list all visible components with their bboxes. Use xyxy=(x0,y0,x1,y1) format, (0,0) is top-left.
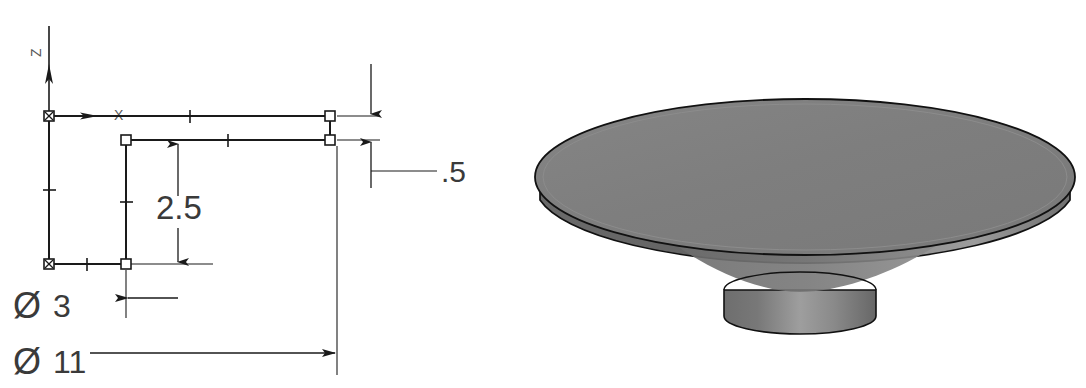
dimension-boss-diameter[interactable]: Ø 3 xyxy=(13,270,178,326)
cad-viewport: Z X xyxy=(0,0,1086,388)
z-axis-label: Z xyxy=(28,48,44,57)
dimension-thickness[interactable]: .5 xyxy=(337,64,466,188)
dim-d11-label[interactable]: 11 xyxy=(53,344,86,380)
dim-p5-label[interactable]: .5 xyxy=(441,155,466,188)
dim-d3-label[interactable]: 3 xyxy=(53,288,71,324)
plate-top-face[interactable] xyxy=(535,99,1075,255)
dimension-height-inner[interactable]: 2.5 xyxy=(131,144,213,264)
dim-d11-symbol: Ø xyxy=(13,341,41,382)
endpoint-inner-top[interactable] xyxy=(121,135,131,145)
sketch-region[interactable]: Z X xyxy=(13,26,466,382)
endpoint-under-right[interactable] xyxy=(325,135,335,145)
cad-drawing-canvas: Z X xyxy=(0,0,1086,388)
dim-2p5-label[interactable]: 2.5 xyxy=(156,189,202,226)
solid-model-region[interactable] xyxy=(535,99,1075,334)
dim-d3-symbol: Ø xyxy=(13,285,41,326)
boss-cylinder-body[interactable] xyxy=(724,290,876,334)
origin-axes: Z X xyxy=(28,26,124,123)
endpoint-bottom-right[interactable] xyxy=(121,259,131,269)
endpoint-top-right[interactable] xyxy=(325,111,335,121)
